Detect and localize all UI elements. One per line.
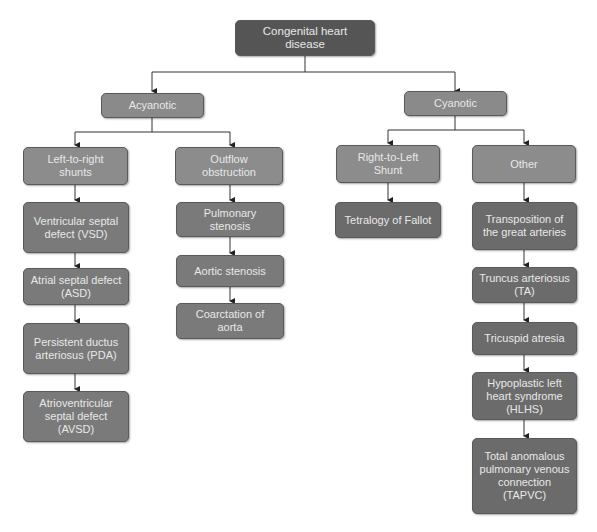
node-right-to-left-shunt: Right-to-Left Shunt [336, 145, 440, 183]
node-avsd: Atrioventricular septal defect (AVSD) [23, 391, 129, 442]
node-truncus-arteriosus: Truncus arteriosus (TA) [472, 267, 577, 303]
node-cyanotic: Cyanotic [404, 91, 507, 116]
node-asd: Atrial septal defect (ASD) [23, 268, 129, 305]
node-acyanotic: Acyanotic [101, 93, 204, 118]
node-tapvc: Total anomalous pulmonary venous connect… [472, 438, 577, 514]
node-left-to-right-shunts: Left-to-right shunts [23, 147, 128, 185]
node-pulmonary-stenosis: Pulmonary stenosis [176, 202, 284, 237]
node-tetralogy-of-fallot: Tetralogy of Fallot [335, 202, 441, 238]
node-congenital-heart-disease: Congenital heart disease [235, 20, 375, 56]
node-transposition: Transposition of the great arteries [472, 202, 577, 250]
node-tricuspid-atresia: Tricuspid atresia [472, 322, 577, 355]
node-outflow-obstruction: Outflow obstruction [175, 147, 283, 185]
node-coarctation-of-aorta: Coarctation of aorta [176, 303, 284, 339]
node-other: Other [472, 145, 576, 183]
node-aortic-stenosis: Aortic stenosis [176, 255, 284, 287]
node-vsd: Ventricular septal defect (VSD) [23, 202, 129, 253]
node-pda: Persistent ductus arteriosus (PDA) [23, 323, 129, 374]
node-hlhs: Hypoplastic left heart syndrome (HLHS) [472, 372, 577, 420]
